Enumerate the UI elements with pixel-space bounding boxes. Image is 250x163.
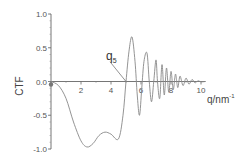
annotation-q: q (106, 49, 113, 63)
axes (51, 14, 206, 149)
annotation-q5: q5 (106, 49, 117, 64)
x-axis-label-superscript: -1 (229, 93, 235, 99)
annotation-pointer (110, 62, 126, 82)
annotation-subscript: 5 (113, 57, 117, 64)
y-tick-label: -1.0 (33, 145, 47, 154)
origin-marker (49, 82, 53, 86)
x-tick-label: 10 (197, 86, 206, 95)
x-tick-label: 2 (79, 86, 84, 95)
x-axis-label: q/nm-1 (207, 93, 235, 105)
y-axis-label: CTF (14, 76, 25, 95)
y-tick-label: -0.5 (33, 111, 47, 120)
ctf-curve (51, 37, 206, 147)
ticks: 1.00.50.0-0.5-1.0246810 (33, 10, 206, 154)
y-tick-label: 1.0 (36, 10, 48, 19)
ctf-chart: 1.00.50.0-0.5-1.0246810 q5 CTF q/nm-1 (0, 0, 250, 163)
x-tick-label: 4 (109, 86, 114, 95)
y-tick-label: 0.0 (36, 78, 48, 87)
x-axis-label-main: q/nm (207, 94, 229, 105)
y-tick-label: 0.5 (36, 44, 48, 53)
